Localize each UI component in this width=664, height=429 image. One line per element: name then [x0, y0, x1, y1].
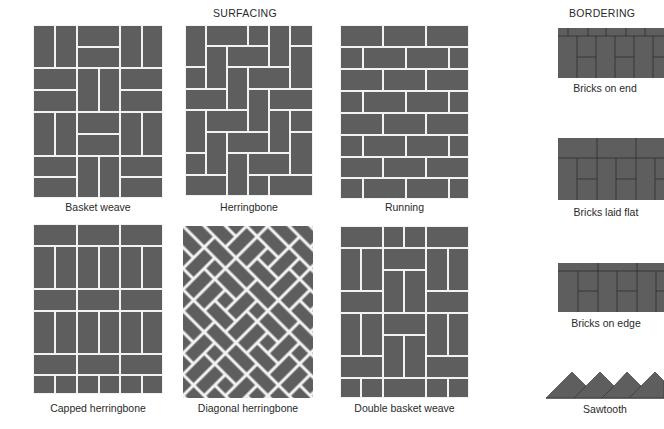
double-basket-weave-label: Double basket weave: [340, 402, 469, 414]
surfacing-heading: SURFACING: [213, 7, 277, 19]
running-label: Running: [340, 201, 469, 213]
bricks-laid-flat-pattern: [558, 138, 664, 200]
running-pattern: [340, 25, 469, 199]
sawtooth-pattern: [546, 371, 664, 399]
capped-herringbone-pattern: [33, 224, 163, 394]
double-basket-weave-pattern: [340, 226, 469, 398]
sawtooth-label: Sawtooth: [560, 403, 650, 415]
bricks-on-edge-pattern: [558, 263, 664, 312]
capped-herringbone-label: Capped herringbone: [33, 402, 163, 414]
bricks-on-end-pattern: [558, 28, 664, 78]
diagonal-herringbone-label: Diagonal herringbone: [183, 402, 313, 414]
diagonal-herringbone-pattern: [183, 226, 313, 398]
basket-weave-label: Basket weave: [33, 201, 163, 213]
bricks-on-end-label: Bricks on end: [560, 82, 650, 94]
herringbone-pattern: [185, 25, 313, 196]
bricks-on-edge-label: Bricks on edge: [556, 317, 656, 329]
herringbone-label: Herringbone: [185, 201, 313, 213]
bricks-laid-flat-label: Bricks laid flat: [556, 206, 656, 218]
bordering-heading: BORDERING: [569, 7, 635, 19]
basket-weave-pattern: [33, 25, 163, 198]
